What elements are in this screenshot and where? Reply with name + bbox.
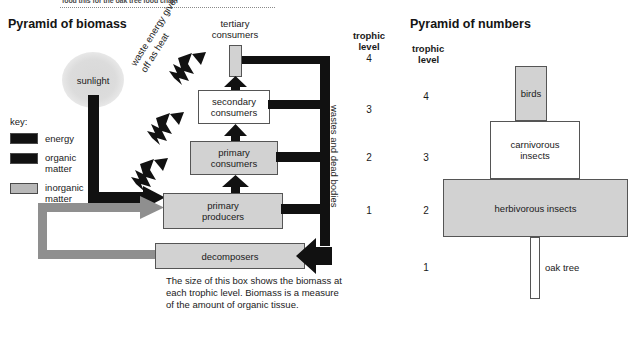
tertiary-consumers-label-line2: consumers	[196, 29, 274, 40]
bar-carnivorous-insects-label-line1: carnivorous	[510, 139, 559, 150]
key-swatch-energy	[10, 133, 38, 144]
left-trophic-level-2: 2	[346, 152, 392, 163]
box-primary-consumers: primary consumers	[190, 141, 278, 175]
secondary-consumers-label-line1: secondary	[211, 96, 257, 107]
left-trophic-level-3: 3	[346, 104, 392, 115]
right-trophic-header-line2: level	[412, 54, 460, 65]
bar-oak-tree-label: oak tree	[545, 262, 579, 273]
key-label-inorganic-matter-line1: inorganic	[45, 182, 84, 193]
right-trophic-header-line1: trophic	[412, 43, 460, 54]
waste-heat-bolt-arrow-middle	[146, 112, 186, 146]
left-trophic-level-1: 1	[346, 205, 392, 216]
left-trophic-header-line1: trophic	[346, 30, 392, 41]
key-label-organic-matter-line1: organic	[45, 152, 76, 163]
left-trophic-level-4: 4	[346, 53, 392, 64]
page-title-pyramid-of-numbers: Pyramid of numbers	[410, 17, 531, 31]
waste-heat-bolt-arrow-bottom	[130, 158, 170, 192]
inorganic-flow-top-bar	[38, 203, 146, 212]
page-title-pyramid-of-biomass: Pyramid of biomass	[8, 17, 127, 31]
left-trophic-level-header: trophic level	[346, 30, 392, 52]
waste-heat-bolt-arrow-top	[168, 52, 208, 86]
wastes-and-dead-bodies-label: wastes and dead bodies	[329, 105, 340, 207]
arrow-wastes-into-decomposers	[296, 238, 336, 274]
key-label-inorganic-matter-line2: matter	[45, 193, 84, 204]
sunlight-label: sunlight	[77, 75, 110, 86]
wastes-stub-secondary	[268, 100, 328, 109]
bar-birds-label: birds	[521, 88, 542, 99]
box-primary-producers: primary producers	[163, 193, 283, 229]
right-trophic-level-header: trophic level	[412, 43, 460, 65]
energy-flow-vertical-bar	[88, 95, 99, 203]
key-label-organic-matter-line2: matter	[45, 163, 76, 174]
right-trophic-level-2: 2	[416, 205, 436, 216]
right-trophic-level-1: 1	[416, 262, 436, 273]
box-secondary-consumers: secondary consumers	[198, 90, 270, 124]
key-item-inorganic-matter: inorganic matter	[10, 182, 84, 204]
key-item-organic-matter: organic matter	[10, 152, 76, 174]
primary-consumers-label-line1: primary	[211, 147, 257, 158]
right-trophic-level-3: 3	[416, 152, 436, 163]
primary-consumers-label-line2: consumers	[211, 158, 257, 169]
primary-producers-label-line2: producers	[202, 211, 244, 222]
right-trophic-level-4: 4	[416, 91, 436, 102]
key-swatch-inorganic-matter	[10, 183, 38, 194]
secondary-consumers-label-line2: consumers	[211, 107, 257, 118]
key-label-energy: energy	[45, 133, 74, 144]
box-decomposers: decomposers	[155, 243, 305, 269]
bar-carnivorous-insects: carnivorous insects	[490, 121, 580, 179]
bar-herbivorous-insects-label: herbivorous insects	[495, 203, 577, 214]
wastes-stub-tertiary	[242, 56, 328, 64]
left-trophic-header-line2: level	[346, 41, 392, 52]
bar-birds: birds	[515, 66, 547, 121]
arrow-primary-producers-to-consumers	[222, 175, 250, 194]
key-swatch-organic-matter	[10, 153, 38, 164]
tertiary-consumers-label: tertiary consumers	[196, 18, 274, 40]
bar-carnivorous-insects-label-line2: insects	[510, 150, 559, 161]
key-title: key:	[10, 116, 27, 127]
tertiary-consumers-label-line1: tertiary	[196, 18, 274, 29]
biomass-caption: The size of this box shows the biomass a…	[166, 275, 346, 312]
inorganic-flow-bottom-bar	[38, 250, 160, 259]
arrow-primary-consumers-to-secondary	[224, 124, 248, 142]
bar-oak-tree	[530, 237, 540, 299]
key-item-energy: energy	[10, 133, 74, 144]
cropped-top-caption: food this for the oak tree food chain	[62, 0, 262, 5]
bar-herbivorous-insects: herbivorous insects	[443, 179, 628, 237]
box-tertiary-consumers	[229, 45, 242, 77]
primary-producers-label-line1: primary	[202, 200, 244, 211]
decomposers-label: decomposers	[201, 251, 258, 262]
